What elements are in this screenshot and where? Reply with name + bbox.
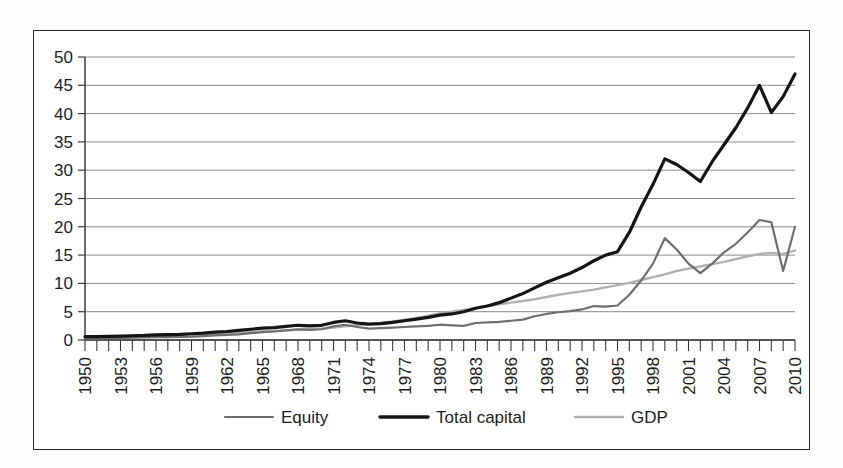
y-axis-label: 20 (54, 218, 73, 237)
y-axis-label: 50 (54, 48, 73, 67)
y-axis-label: 30 (54, 161, 73, 180)
series-line-equity (85, 220, 795, 338)
x-axis-label: 1950 (76, 357, 95, 395)
x-axis-label: 2001 (680, 357, 699, 395)
x-axis-label: 1983 (467, 357, 486, 395)
x-axis-label: 2004 (715, 357, 734, 395)
x-axis-label: 1986 (502, 357, 521, 395)
y-axis-label: 5 (64, 303, 73, 322)
x-axis-label: 1956 (147, 357, 166, 395)
x-axis-label: 1968 (289, 357, 308, 395)
x-axis-label: 2010 (786, 357, 805, 395)
x-axis-label: 1971 (325, 357, 344, 395)
x-axis-label: 1995 (609, 357, 628, 395)
x-axis-label: 1977 (396, 357, 415, 395)
y-axis-label: 40 (54, 105, 73, 124)
legend-label-gdp: GDP (631, 408, 668, 427)
legend-label-total-capital: Total capital (436, 408, 526, 427)
chart-screenshot: 0510152025303540455019501953195619591962… (0, 0, 843, 468)
y-axis-label: 15 (54, 246, 73, 265)
y-axis-label: 35 (54, 133, 73, 152)
line-chart: 0510152025303540455019501953195619591962… (0, 0, 843, 468)
legend-label-equity: Equity (281, 408, 329, 427)
y-axis-label: 10 (54, 274, 73, 293)
x-axis-label: 2007 (751, 357, 770, 395)
x-axis-label: 1998 (644, 357, 663, 395)
x-axis-label: 1965 (254, 357, 273, 395)
y-axis-label: 45 (54, 76, 73, 95)
x-axis-label: 1962 (218, 357, 237, 395)
x-axis-label: 1992 (573, 357, 592, 395)
x-axis-label: 1953 (112, 357, 131, 395)
x-axis-label: 1989 (538, 357, 557, 395)
x-axis-label: 1959 (183, 357, 202, 395)
y-axis-label: 0 (64, 331, 73, 350)
y-axis-label: 25 (54, 190, 73, 209)
x-axis-label: 1974 (360, 357, 379, 395)
chart-canvas: 0510152025303540455019501953195619591962… (0, 0, 843, 468)
x-axis-label: 1980 (431, 357, 450, 395)
